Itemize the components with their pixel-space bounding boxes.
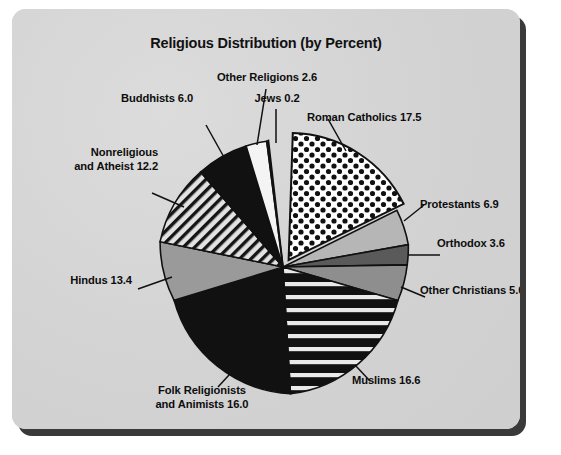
label-folk-line2: and Animists 16.0: [122, 398, 282, 412]
label-jews: Jews 0.2: [212, 92, 342, 106]
label-roman-catholics: Roman Catholics 17.5: [307, 111, 421, 125]
label-nonreligious-line1: Nonreligious: [68, 146, 158, 160]
label-nonreligious-line2: and Atheist 12.2: [68, 160, 158, 174]
label-muslims: Muslims 16.6: [352, 374, 420, 388]
chart-canvas: Religious Distribution (by Percent): [12, 9, 520, 429]
label-other-christians: Other Christians 5.0: [420, 284, 520, 298]
label-hindus: Hindus 13.4: [22, 274, 132, 288]
label-buddhists: Buddhists 6.0: [92, 92, 222, 106]
label-other-religions: Other Religions 2.6: [172, 71, 362, 85]
label-folk-line1: Folk Religionists: [122, 384, 282, 398]
label-nonreligious: Nonreligious and Atheist 12.2: [68, 146, 158, 173]
pie-slices: [160, 133, 408, 394]
label-protestants: Protestants 6.9: [420, 198, 499, 212]
leader-buddhists: [206, 125, 225, 159]
chart-card: Religious Distribution (by Percent): [12, 9, 520, 429]
label-folk: Folk Religionists and Animists 16.0: [122, 384, 282, 411]
label-orthodox: Orthodox 3.6: [437, 237, 505, 251]
